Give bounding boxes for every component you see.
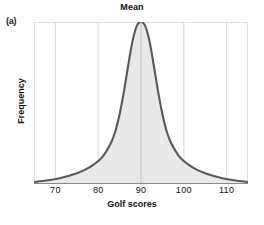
distribution-plot (34, 22, 248, 184)
x-tick-label-70: 70 (40, 185, 70, 195)
panel-label: (a) (6, 16, 16, 26)
x-tick-label-90: 90 (126, 185, 156, 195)
y-axis-title: Frequency (16, 51, 26, 151)
chart-figure: Mean (a) 708090100110 Golf scores Freque… (0, 0, 264, 225)
x-tick-label-110: 110 (212, 185, 242, 195)
x-tick-label-80: 80 (83, 185, 113, 195)
x-tick-label-100: 100 (169, 185, 199, 195)
chart-title: Mean (0, 2, 264, 12)
x-axis-title: Golf scores (0, 199, 264, 209)
plot-area (34, 22, 248, 184)
